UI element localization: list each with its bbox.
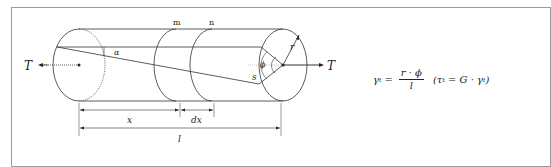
label-torque-left: T (24, 59, 33, 73)
formula-equals: = (384, 74, 392, 85)
formula-paren-open: (τ (433, 74, 442, 85)
left-end-hidden-arc (79, 29, 105, 101)
label-phi: ϕ (260, 60, 266, 69)
shear-strain-formula: γt = r · ϕ l (τt = G · γt) (373, 64, 489, 94)
arrowhead-right-T (319, 63, 324, 67)
label-dim-x: x (127, 115, 132, 125)
label-section-m: m (173, 18, 181, 27)
formula-numerator: r · ϕ (399, 67, 424, 80)
label-dim-l: l (178, 134, 181, 144)
label-dim-dx: dx (191, 115, 202, 125)
formula-paren-mid: = G · γ (445, 74, 483, 85)
label-torque-right: T (327, 59, 336, 73)
formula-denominator: l (410, 80, 413, 92)
formula-paren-close: ) (485, 74, 489, 85)
label-arc-s: s (252, 72, 257, 82)
formula-fraction: r · ϕ l (399, 67, 424, 92)
formula-lhs-sub: t (379, 76, 381, 83)
label-radius: r (290, 42, 295, 52)
label-section-n: n (209, 18, 214, 27)
section-n-arc (190, 29, 212, 101)
deformed-line (57, 47, 259, 84)
left-center-dot (78, 64, 81, 67)
label-alpha: α (114, 48, 120, 57)
arrowhead-left-T (38, 63, 43, 67)
right-center-dot (281, 63, 284, 66)
